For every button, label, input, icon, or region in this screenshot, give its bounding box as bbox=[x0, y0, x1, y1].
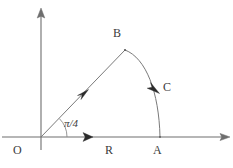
vertical-axis-group bbox=[37, 8, 45, 150]
arc-arrowhead-icon bbox=[147, 83, 159, 94]
arc-group bbox=[125, 50, 160, 137]
vertex-dot-a bbox=[159, 136, 161, 138]
polar-diagram-figure: O R A B C π/4 bbox=[0, 0, 233, 168]
label-origin: O bbox=[13, 144, 22, 156]
horizontal-axis-group bbox=[2, 133, 230, 140]
radial-ray-group bbox=[41, 50, 125, 137]
label-arc-c: C bbox=[163, 81, 171, 93]
label-radial-r: R bbox=[105, 144, 113, 156]
label-angle-pi-over-four: π/4 bbox=[64, 118, 78, 129]
vertex-dot-b bbox=[124, 49, 126, 51]
arc-path bbox=[125, 50, 160, 137]
label-point-a: A bbox=[153, 144, 162, 156]
label-point-b: B bbox=[113, 27, 121, 39]
